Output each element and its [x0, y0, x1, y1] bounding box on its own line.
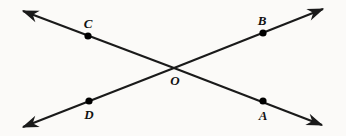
geometry-figure: C B O D A	[0, 0, 346, 136]
point-label-o: O	[170, 74, 179, 87]
point-label-b: B	[258, 14, 267, 27]
line-db-segment	[174, 9, 323, 68]
point-label-d: D	[84, 108, 93, 121]
point-dot-b	[259, 29, 266, 36]
point-dot-a	[259, 97, 266, 104]
point-dot-c	[84, 32, 91, 39]
line-db-segment-ray	[23, 68, 174, 127]
line-ca-segment-ray	[23, 11, 174, 68]
point-label-c: C	[84, 17, 93, 30]
line-ca-segment	[174, 68, 322, 125]
point-dot-d	[85, 97, 92, 104]
figure-canvas	[0, 0, 346, 136]
point-label-a: A	[259, 109, 268, 122]
